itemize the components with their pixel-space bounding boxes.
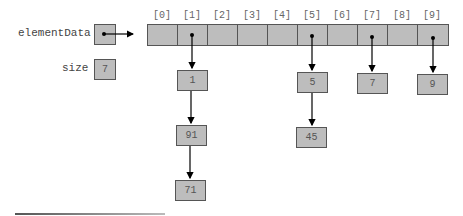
bottom-rule xyxy=(15,213,165,215)
pointer-arrows xyxy=(0,0,463,216)
